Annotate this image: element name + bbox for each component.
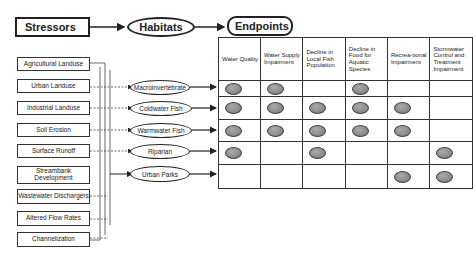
endpoint-local-fish: Decline in Local Fish Population xyxy=(303,38,345,81)
impact-marker-icon xyxy=(309,147,326,159)
matrix-row xyxy=(219,142,473,165)
matrix-cell xyxy=(387,165,430,189)
matrix-cell xyxy=(430,97,473,120)
matrix-cell xyxy=(345,81,387,97)
impact-marker-icon xyxy=(225,102,242,114)
matrix-row xyxy=(219,97,473,120)
impact-marker-icon xyxy=(436,171,453,183)
matrix-cell xyxy=(430,120,473,142)
matrix-cell xyxy=(219,165,261,189)
stressor-altered-flow-rates: Altered Flow Rates xyxy=(17,211,90,226)
impact-marker-icon xyxy=(352,83,369,95)
stressor-agricultural-landuse: Agricultural Landuse xyxy=(17,57,90,71)
matrix-cell xyxy=(260,97,303,120)
stressors-header: Stressors xyxy=(15,17,90,37)
stressor-surface-runoff: Surface Runoff xyxy=(17,144,90,158)
matrix-cell xyxy=(303,120,345,142)
habitat-riparian: Riparian xyxy=(130,144,190,159)
endpoints-matrix: Water Quality Water Supply Impairment De… xyxy=(218,37,473,189)
matrix-row xyxy=(219,81,473,97)
matrix-cell xyxy=(260,81,303,97)
stressor-channelization: Channelization xyxy=(17,232,90,247)
matrix-cell xyxy=(219,142,261,165)
impact-marker-icon xyxy=(267,125,284,137)
endpoint-recreational: Recrea-tional Impairment xyxy=(387,38,430,81)
matrix-row xyxy=(219,120,473,142)
matrix-cell xyxy=(345,97,387,120)
impact-marker-icon xyxy=(225,147,242,159)
matrix-cell xyxy=(430,142,473,165)
endpoint-aquatic-food: Decline in Food for Aquatic Species xyxy=(345,38,387,81)
impact-marker-icon xyxy=(394,102,411,114)
impact-marker-icon xyxy=(436,147,453,159)
impact-marker-icon xyxy=(352,102,369,114)
endpoint-stormwater: Stormwater Control and Treatment Impairm… xyxy=(430,38,473,81)
habitat-macroinvertebrate: Macroinvertebrate xyxy=(130,80,190,95)
stressor-soil-erosion: Soil Erosion xyxy=(17,123,90,137)
matrix-cell xyxy=(387,81,430,97)
matrix-cell xyxy=(345,165,387,189)
matrix-cell xyxy=(303,165,345,189)
habitat-urban-parks: Urban Parks xyxy=(130,166,190,182)
endpoint-water-quality: Water Quality xyxy=(219,38,261,81)
matrix-cell xyxy=(219,97,261,120)
impact-marker-icon xyxy=(267,83,284,95)
impact-marker-icon xyxy=(309,125,326,137)
stressor-wastewater-dischargers: Wastewater Dischargers xyxy=(17,189,90,204)
habitats-header: Habitats xyxy=(127,17,195,37)
matrix-cell xyxy=(303,142,345,165)
impact-marker-icon xyxy=(225,125,242,137)
impact-marker-icon xyxy=(225,83,242,95)
impact-marker-icon xyxy=(352,125,369,137)
matrix-cell xyxy=(430,165,473,189)
habitat-coldwater-fish: Coldwater Fish xyxy=(130,101,192,116)
matrix-cell xyxy=(303,81,345,97)
matrix-cell xyxy=(219,120,261,142)
matrix-cell xyxy=(260,165,303,189)
impact-marker-icon xyxy=(267,102,284,114)
matrix-cell xyxy=(260,120,303,142)
stressor-streambank-development: Streambank Development xyxy=(17,166,90,184)
matrix-cell xyxy=(260,142,303,165)
stressor-industrial-landuse: Industrial Landuse xyxy=(17,101,90,115)
matrix-cell xyxy=(345,142,387,165)
endpoints-header: Endpoints xyxy=(227,16,293,36)
matrix-cell xyxy=(345,120,387,142)
impact-marker-icon xyxy=(394,125,411,137)
impact-marker-icon xyxy=(309,102,326,114)
habitat-warmwater-fish: Warmwater Fish xyxy=(130,123,192,138)
matrix-cell xyxy=(219,81,261,97)
impact-marker-icon xyxy=(394,171,411,183)
matrix-cell xyxy=(387,97,430,120)
matrix-row xyxy=(219,165,473,189)
endpoint-water-supply: Water Supply Impairment xyxy=(260,38,303,81)
stressor-urban-landuse: Urban Landuse xyxy=(17,79,90,93)
matrix-cell xyxy=(303,97,345,120)
matrix-cell xyxy=(387,142,430,165)
matrix-cell xyxy=(430,81,473,97)
matrix-cell xyxy=(387,120,430,142)
